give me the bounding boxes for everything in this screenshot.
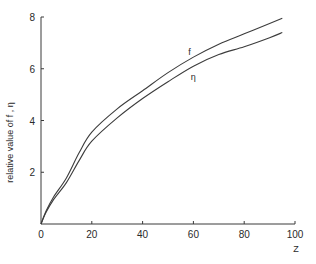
y-axis-label: relative value of f , η xyxy=(5,102,15,183)
x-tick-label: 60 xyxy=(188,229,200,240)
x-tick-label: 80 xyxy=(239,229,251,240)
y-tick-label: 6 xyxy=(29,64,35,75)
series-line-eta xyxy=(41,33,282,224)
y-ticks: 2468 xyxy=(29,12,44,178)
x-tick-label: 100 xyxy=(287,229,304,240)
line-chart: 020406080100 2468 fη Z relative value of… xyxy=(0,0,316,264)
series-line-f xyxy=(41,18,282,224)
x-axis-label: Z xyxy=(293,244,299,254)
y-tick-label: 8 xyxy=(29,12,35,23)
axes xyxy=(41,17,295,224)
y-tick-label: 4 xyxy=(29,116,35,127)
x-tick-label: 40 xyxy=(137,229,149,240)
curve-labels: fη xyxy=(188,47,196,83)
series-label-eta: η xyxy=(191,72,196,82)
x-tick-label: 0 xyxy=(38,229,44,240)
y-tick-label: 2 xyxy=(29,167,35,178)
series-label-f: f xyxy=(188,47,191,57)
curves xyxy=(41,18,282,224)
x-tick-label: 20 xyxy=(86,229,98,240)
